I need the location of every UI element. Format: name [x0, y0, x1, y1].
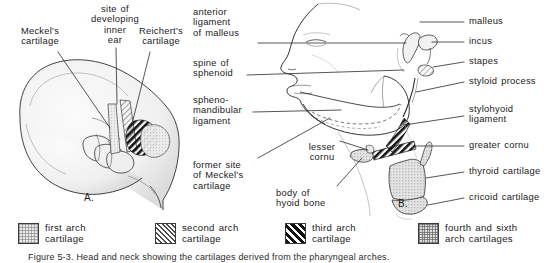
label-spine-of-sphenoid: spine of sphenoid [193, 58, 261, 79]
figure-caption: Figure 5-3. Head and neck showing the ca… [28, 252, 548, 263]
legend-item-second-arch: second arch cartilage [155, 222, 239, 244]
swatch-third-arch-cartilage [285, 223, 306, 244]
panel-b-identifier: B. [398, 198, 408, 209]
panel-a-identifier: A. [84, 192, 94, 203]
label-greater-cornu: greater cornu [469, 140, 529, 150]
label-malleus: malleus [469, 16, 503, 26]
swatch-first-arch-cartilage [18, 223, 39, 244]
label-reicherts-cartilage: Reichert's cartilage [124, 26, 198, 47]
label-styloid-process: styloid process [469, 76, 536, 86]
legend: first arch cartilage second arch cartila… [0, 220, 557, 250]
legend-item-fourth-sixth-arch: fourth and sixth arch cartilages [418, 222, 517, 244]
swatch-second-arch-cartilage [155, 223, 176, 244]
legend-label-fourth-sixth-arch: fourth and sixth arch cartilages [445, 222, 517, 244]
label-lesser-cornu: lesser cornu [298, 142, 346, 163]
label-body-of-hyoid-bone: body of hyoid bone [276, 188, 342, 209]
legend-label-third-arch: third arch cartilage [312, 222, 356, 244]
label-stapes: stapes [469, 56, 498, 66]
label-former-site-of-meckels-cartilage: former site of Meckel's cartilage [193, 160, 267, 191]
label-sphenomandibular-ligament: spheno- mandibular ligament [193, 95, 263, 126]
label-meckels-cartilage: Meckel's cartilage [2, 26, 78, 47]
swatch-fourth-and-sixth-arch-cartilages [418, 223, 439, 244]
figure-anatomy-pharyngeal-arch-cartilages: Meckel's cartilage site of developing in… [0, 0, 557, 263]
label-cricoid-cartilage: cricoid cartilage [469, 192, 539, 202]
legend-item-first-arch: first arch cartilage [18, 222, 86, 244]
legend-label-first-arch: first arch cartilage [45, 222, 86, 244]
label-incus: incus [469, 36, 492, 46]
label-stylohyoid-ligament: stylohyoid ligament [469, 104, 513, 125]
legend-label-second-arch: second arch cartilage [182, 222, 239, 244]
legend-item-third-arch: third arch cartilage [285, 222, 356, 244]
label-anterior-ligament-of-malleus: anterior ligament of malleus [193, 7, 263, 38]
label-thyroid-cartilage: thyroid cartilage [469, 166, 540, 176]
